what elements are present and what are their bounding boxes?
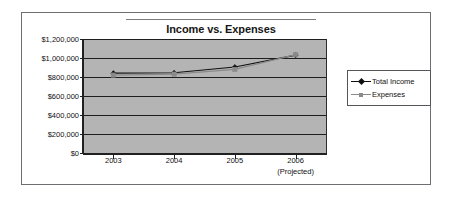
legend-item-label: Total Income <box>372 77 415 86</box>
x-axis-line <box>83 153 327 155</box>
x-axis-tick-label: 2003 <box>83 156 143 165</box>
x-axis-tick-label: 2005 <box>205 156 265 165</box>
data-point-marker <box>172 72 176 76</box>
data-point-marker <box>233 67 237 71</box>
y-axis-tick-label: $800,000 <box>23 73 79 82</box>
y-axis-tick-label: $1,200,000 <box>23 35 79 44</box>
y-axis-tick-label: $0 <box>23 149 79 158</box>
y-axis-labels: $0$200,000$400,000$600,000$800,000$1,000… <box>22 39 79 154</box>
x-axis-sublabel: (Projected) <box>266 167 326 176</box>
x-axis-tick-label: 2004 <box>144 156 204 165</box>
legend-item-2[interactable]: Expenses <box>350 88 427 101</box>
series-line <box>113 55 295 75</box>
y-axis-tick-label: $400,000 <box>23 111 79 120</box>
chart-title: Income vs. Expenses <box>126 19 316 35</box>
x-axis-tick-label: 2006 <box>266 156 326 165</box>
y-axis-tick-label: $200,000 <box>23 130 79 139</box>
y-axis-tick-label: $600,000 <box>23 92 79 101</box>
x-axis-labels: 2003200420052006(Projected) <box>83 156 327 186</box>
legend-marker <box>359 93 363 97</box>
legend-item-label: Expenses <box>372 90 405 99</box>
diamond-marker-icon <box>350 76 372 87</box>
legend-item-1[interactable]: Total Income <box>350 75 427 88</box>
data-point-marker <box>111 73 115 77</box>
square-marker-icon <box>350 89 372 100</box>
series-plot <box>83 39 326 153</box>
chart-legend: Total IncomeExpenses <box>347 70 431 106</box>
y-axis-tick-label: $1,000,000 <box>23 54 79 63</box>
data-point-marker <box>293 52 297 56</box>
series-line <box>113 55 295 73</box>
chart-frame: Income vs. Expenses $0$200,000$400,000$6… <box>21 12 431 185</box>
legend-marker <box>358 78 365 85</box>
